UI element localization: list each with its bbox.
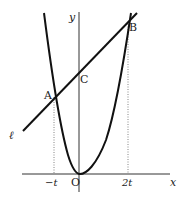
origin-label: O [71, 176, 80, 189]
parabola-curve [44, 13, 131, 174]
tick-label-neg-t: −t [45, 177, 58, 188]
point-c-label: C [80, 73, 88, 86]
x-axis-label: x [170, 176, 177, 189]
point-a-label: A [43, 89, 53, 102]
tick-label-2t: 2t [121, 177, 133, 188]
coordinate-diagram: y x O A B C ℓ −t 2t [0, 0, 189, 197]
line-l-label: ℓ [9, 129, 14, 142]
line-l [23, 13, 137, 131]
y-axis-label: y [68, 11, 76, 24]
point-b-label: B [129, 21, 137, 34]
